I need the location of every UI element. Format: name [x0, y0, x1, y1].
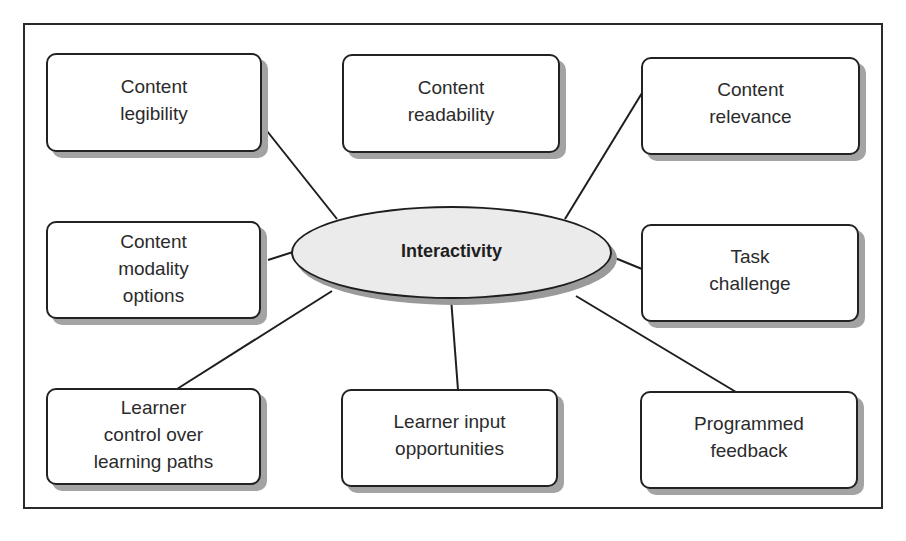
node-learner-input: Learner input opportunities: [341, 389, 558, 487]
node-task-challenge: Task challenge: [641, 224, 859, 322]
node-programmed-feedback: Programmed feedback: [640, 391, 858, 489]
edge-to-content-modality-options: [268, 252, 293, 260]
node-content-modality-options: Content modality options: [46, 221, 261, 319]
center-label: Interactivity: [401, 241, 502, 262]
edge-to-content-relevance: [565, 93, 642, 219]
node-label: Task challenge: [709, 243, 790, 297]
node-label: Content readability: [408, 74, 495, 128]
edge-to-task-challenge: [615, 258, 642, 269]
node-label: Content legibility: [120, 73, 188, 127]
node-label: Content modality options: [118, 228, 189, 309]
node-learner-control: Learner control over learning paths: [46, 388, 261, 485]
node-label: Learner control over learning paths: [94, 394, 213, 475]
node-content-readability: Content readability: [342, 54, 560, 153]
center-ellipse: Interactivity: [291, 206, 612, 299]
edge-to-learner-input: [451, 298, 458, 390]
node-content-legibility: Content legibility: [46, 53, 262, 152]
node-label: Programmed feedback: [694, 410, 804, 464]
center-node-interactivity: Interactivity: [291, 206, 612, 299]
node-label: Content relevance: [709, 76, 791, 130]
node-label: Learner input opportunities: [394, 408, 506, 462]
node-content-relevance: Content relevance: [641, 57, 860, 155]
